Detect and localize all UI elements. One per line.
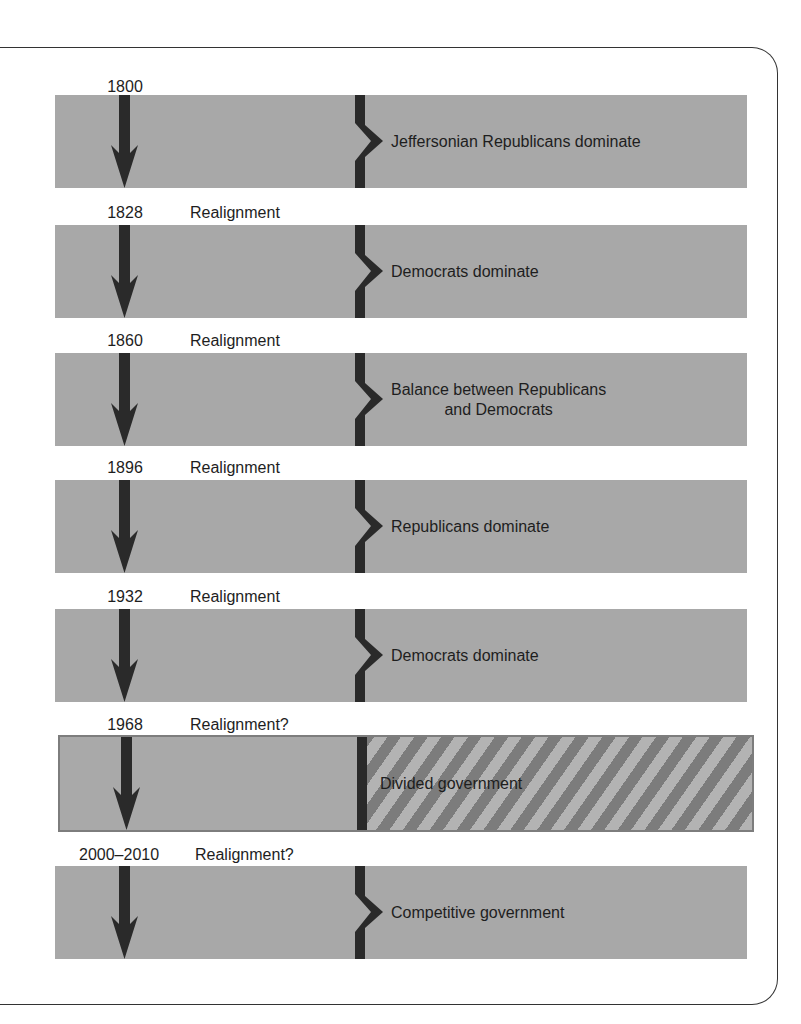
era-event: Realignment [190,329,280,353]
era-event: Realignment? [195,843,294,867]
era-header-2000-2010: 2000–2010 Realignment? [0,843,801,867]
chevron-divider-icon [351,95,383,188]
era-header-1932: 1932 Realignment [0,585,801,609]
down-arrow-icon [108,609,140,702]
era-description: Democrats dominate [391,646,539,666]
era-event: Realignment? [190,713,289,737]
era-description: Balance between Republicans and Democrat… [391,380,606,420]
era-year: 1932 [85,585,165,609]
era-year: 1828 [85,201,165,225]
era-description: Republicans dominate [391,517,549,537]
down-arrow-icon [108,95,140,188]
era-band-democrats-1828: Democrats dominate [55,225,747,318]
era-year: 1896 [85,456,165,480]
chevron-divider-icon [351,225,383,318]
era-band-competitive: Competitive government [55,866,747,959]
era-header-1860: 1860 Realignment [0,329,801,353]
down-arrow-icon [108,866,140,959]
down-arrow-icon [108,225,140,318]
era-event: Realignment [190,201,280,225]
era-description-line2: and Democrats [391,400,606,420]
era-header-1896: 1896 Realignment [0,456,801,480]
down-arrow-icon [110,737,142,830]
era-header-1828: 1828 Realignment [0,201,801,225]
era-event: Realignment [190,456,280,480]
chevron-divider-icon [351,866,383,959]
era-event: Realignment [190,585,280,609]
era-description: Divided government [380,774,522,794]
era-description: Democrats dominate [391,262,539,282]
era-description: Competitive government [391,903,564,923]
era-band-democrats-1932: Democrats dominate [55,609,747,702]
era-year: 1968 [85,713,165,737]
down-arrow-icon [108,480,140,573]
era-year: 2000–2010 [79,843,159,867]
era-band-divided: Divided government [58,735,754,832]
era-band-balance: Balance between Republicans and Democrat… [55,353,747,446]
chevron-divider-icon [351,609,383,702]
era-header-1968: 1968 Realignment? [0,713,801,737]
down-arrow-icon [108,353,140,446]
chevron-divider-icon [351,353,383,446]
era-band-jeffersonian: Jeffersonian Republicans dominate [55,95,747,188]
era-description-line1: Balance between Republicans [391,380,606,400]
era-description: Jeffersonian Republicans dominate [391,132,641,152]
era-year: 1860 [85,329,165,353]
chevron-divider-icon [351,480,383,573]
era-band-republicans: Republicans dominate [55,480,747,573]
